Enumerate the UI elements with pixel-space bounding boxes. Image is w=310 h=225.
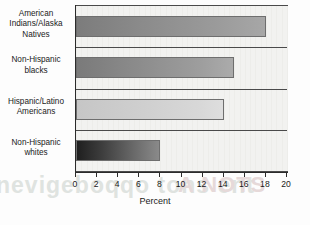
y-axis-category-label: AmericanIndians/AlaskaNatives <box>0 9 72 41</box>
x-axis-tick <box>223 172 224 177</box>
x-axis-tick <box>159 172 160 177</box>
x-axis-tick <box>286 172 287 177</box>
bar-4 <box>76 140 160 161</box>
bar-3 <box>76 99 224 120</box>
category-divider <box>76 47 287 48</box>
category-label-line: Non-Hispanic <box>0 55 72 66</box>
category-label-line: Non-Hispanic <box>0 138 72 149</box>
x-axis-tick <box>96 172 97 177</box>
x-axis-tick <box>202 172 203 177</box>
x-axis-tick <box>265 172 266 177</box>
plot-area <box>75 5 288 172</box>
y-axis-category-label: Hispanic/LatinoAmericans <box>0 97 72 118</box>
x-axis-line <box>75 172 288 173</box>
category-divider <box>76 89 287 90</box>
category-label-line: American <box>0 9 72 20</box>
category-divider <box>76 130 287 131</box>
y-axis-category-label: Non-Hispanicwhites <box>0 138 72 159</box>
grid-line-minor <box>287 6 288 171</box>
y-axis-line <box>75 5 76 173</box>
x-axis-tick-label: 20 <box>274 179 298 189</box>
x-axis-title: Percent <box>0 196 310 206</box>
x-axis-tick <box>117 172 118 177</box>
bar-2 <box>76 57 234 78</box>
bar-1 <box>76 16 266 37</box>
category-label-line: Hispanic/Latino <box>0 97 72 108</box>
category-label-line: whites <box>0 148 72 159</box>
category-label-line: blacks <box>0 66 72 77</box>
x-axis-tick <box>75 172 76 177</box>
category-label-line: Natives <box>0 30 72 41</box>
category-label-line: Indians/Alaska <box>0 19 72 30</box>
x-axis-tick <box>244 172 245 177</box>
category-label-line: Americans <box>0 107 72 118</box>
x-axis-tick <box>181 172 182 177</box>
x-axis-tick <box>138 172 139 177</box>
bar-chart-figure: a keyhole nevigeboqqo tons ent A NOTS Am… <box>0 0 310 225</box>
y-axis-category-label: Non-Hispanicblacks <box>0 55 72 76</box>
